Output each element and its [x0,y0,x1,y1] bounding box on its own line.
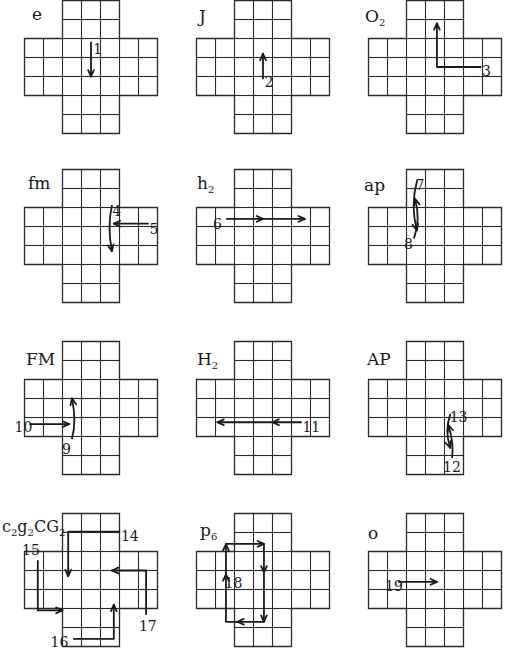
cross-diagram-c2g2CG2: 14151617c2g2CG2 [24,513,194,662]
cross-diagram-fm: 45fm [24,169,194,334]
arrow-number: 7 [416,177,425,193]
arrow-number: 18 [225,575,243,591]
arrow-number: 6 [213,216,222,232]
arrow-number: 14 [121,528,139,544]
cross-grid [196,169,331,304]
movement-arrow-9 [71,399,77,439]
movement-arrow-11 [217,419,301,425]
movement-arrow-17 [112,568,146,615]
arrow-number: 12 [443,459,461,475]
arrow-number: 15 [22,542,40,558]
arrow-number: 8 [404,236,413,252]
pattern-label: AP [367,349,391,369]
arrow-number: 10 [15,419,33,435]
cross-grid [368,169,503,304]
pattern-label: h2 [197,173,214,195]
arrow-number: 1 [93,41,102,57]
movement-arrow-6 [227,216,305,222]
movement-arrow-14 [65,532,119,577]
cross-diagram-p6: 18p6 [196,513,366,662]
arrow-number: 2 [264,74,273,90]
pattern-label: o [368,523,378,543]
pattern-label: fm [28,173,50,193]
arrow-number: 11 [302,419,320,435]
cross-diagram-FM: 910FM [24,341,194,506]
pattern-label: ap [364,175,385,195]
pattern-label: FM [26,349,55,369]
arrow-number: 5 [149,221,158,237]
cross-diagram-H2: 11H2 [196,341,366,506]
movement-arrow-3 [434,23,481,67]
pattern-label: e [32,4,42,24]
arrow-number: 9 [62,441,71,457]
arrow-number: 16 [51,634,69,650]
movement-arrow-10 [30,421,69,427]
movement-arrow-15 [38,561,63,613]
cross-diagram-AP: 1312AP [368,341,512,506]
pattern-label: p6 [200,520,217,542]
cross-grid [24,0,159,135]
movement-arrow-19 [399,579,437,585]
cross-diagram-o: 19o [368,513,512,662]
movement-arrow-16 [74,605,117,639]
pattern-label: c2g2CG2 [2,517,65,538]
cross-diagram-J: 2J [196,0,366,165]
arrow-number: 19 [385,578,403,594]
arrow-number: 4 [112,203,121,219]
arrow-number: 17 [139,618,157,634]
arrow-number: 13 [450,409,468,425]
cross-diagram-O2: 3O2 [368,0,512,165]
arrow-number: 3 [482,63,491,79]
movement-arrow-5 [114,221,148,227]
pattern-label: H2 [197,349,218,371]
diagram-canvas: 1e2J3O245fm6h278ap910FM11H21312AP1415161… [0,0,512,662]
cross-diagram-h2: 6h2 [196,169,366,334]
cross-diagram-e: 1e [24,0,194,165]
pattern-label: J [199,6,206,26]
cross-grid [196,0,331,135]
cross-diagram-ap: 78ap [368,169,512,334]
pattern-label: O2 [365,6,385,28]
